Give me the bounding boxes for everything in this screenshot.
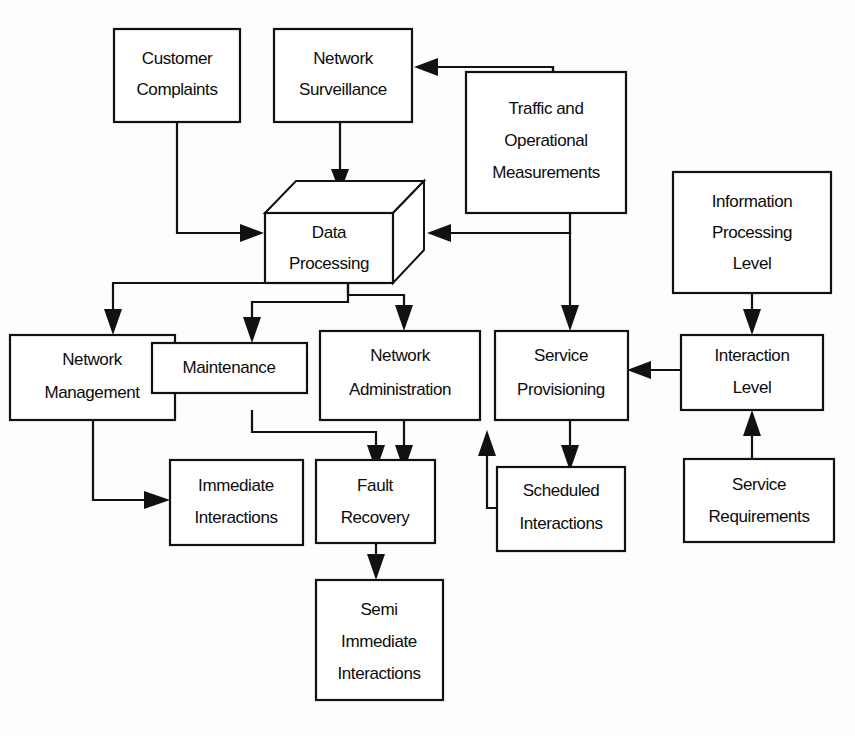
node-label-line1: Fault: [357, 476, 393, 495]
edge-dataprocessing-to-serviceprovisioning: [443, 233, 579, 331]
node-label-line2: Management: [44, 383, 140, 402]
edge-dataprocessing-to-networkadministration: [348, 283, 413, 331]
node-label-line2: Complaints: [136, 80, 217, 99]
node-label-line1: Service: [534, 346, 588, 365]
node-maintenance[interactable]: Maintenance: [152, 343, 307, 393]
edge-networkmanagement-to-immediate: [93, 420, 170, 509]
edge-servicerequirements-to-interactionlevel: [743, 410, 761, 458]
node-label-line2: Level: [733, 378, 772, 397]
node-label-line2: Interactions: [194, 508, 277, 527]
diagram-canvas: Customer Complaints Network Surveillance…: [0, 0, 855, 736]
node-label-line2: Provisioning: [517, 380, 605, 399]
node-label-line1: Semi: [360, 600, 397, 619]
node-label-line1: Data: [312, 223, 347, 242]
node-label-line3: Interactions: [337, 664, 420, 683]
edge-dataprocessing-to-networkmanagement: [104, 283, 265, 335]
node-label-line1: Information: [712, 192, 793, 211]
node-label-line2: Requirements: [708, 507, 809, 526]
node-scheduled-interactions[interactable]: Scheduled Interactions: [497, 467, 625, 551]
node-network-surveillance[interactable]: Network Surveillance: [274, 29, 412, 122]
node-traffic-operational-measurements[interactable]: Traffic and Operational Measurements: [466, 72, 626, 213]
node-label-line3: Measurements: [492, 163, 600, 182]
edge-complaints-to-dataprocessing: [177, 122, 264, 242]
node-label-line1: Scheduled: [523, 481, 600, 500]
node-data-processing[interactable]: Data Processing: [265, 181, 424, 283]
node-immediate-interactions[interactable]: Immediate Interactions: [170, 460, 303, 545]
node-label-line1: Interaction: [715, 346, 790, 365]
node-label-line2: Interactions: [519, 514, 602, 533]
node-semi-immediate-interactions[interactable]: Semi Immediate Interactions: [316, 580, 443, 700]
node-interaction-level[interactable]: Interaction Level: [681, 335, 823, 410]
node-label-line1: Network: [370, 346, 430, 365]
node-label-line1: Service: [732, 475, 786, 494]
edge-infolevel-to-interactionlevel: [743, 293, 761, 335]
edge-interactionlevel-to-serviceprovisioning: [627, 361, 688, 379]
node-label-line2: Surveillance: [299, 80, 387, 99]
node-customer-complaints[interactable]: Customer Complaints: [114, 29, 240, 122]
node-label-line1: Immediate: [198, 476, 274, 495]
edge-traffic-to-dataprocessing: [427, 213, 570, 242]
node-label-line2: Immediate: [341, 632, 417, 651]
node-layer: Customer Complaints Network Surveillance…: [10, 29, 834, 700]
node-network-management[interactable]: Network Management: [10, 335, 175, 420]
node-label-line2: Processing: [712, 223, 792, 242]
flow-diagram: Customer Complaints Network Surveillance…: [0, 0, 855, 736]
node-information-processing-level[interactable]: Information Processing Level: [673, 172, 831, 293]
node-label-line1: Maintenance: [183, 358, 276, 377]
node-label-line1: Network: [62, 350, 122, 369]
node-fault-recovery[interactable]: Fault Recovery: [316, 460, 435, 543]
node-label-line2: Processing: [289, 254, 369, 273]
edge-faultrecovery-to-semiimmediate: [367, 541, 385, 580]
node-label-line3: Level: [733, 254, 772, 273]
node-service-requirements[interactable]: Service Requirements: [684, 459, 834, 542]
node-network-administration[interactable]: Network Administration: [320, 331, 480, 420]
node-label-line2: Operational: [504, 131, 588, 150]
node-label-line1: Customer: [142, 49, 213, 68]
node-label-line2: Administration: [349, 380, 451, 399]
edge-serviceprovisioning-to-scheduled: [561, 420, 579, 471]
node-label-line1: Network: [313, 49, 373, 68]
node-service-provisioning[interactable]: Service Provisioning: [495, 331, 628, 420]
node-label-line1: Traffic and: [509, 99, 584, 118]
node-label-line2: Recovery: [341, 508, 411, 527]
